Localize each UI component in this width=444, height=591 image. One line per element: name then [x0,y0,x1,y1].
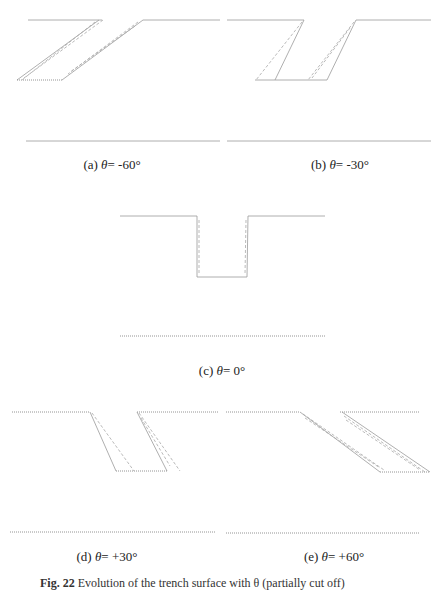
panel-b-label: (b) θ= -30° [311,157,369,173]
panel-d-diagram [10,412,218,532]
panel-c-diagram [120,216,325,336]
panel-a-label: (a) θ= -60° [83,157,140,173]
panel-d-label: (d) θ= +30° [77,549,138,565]
figure-caption: Fig. 22 Evolution of the trench surface … [40,576,345,591]
panel-a-diagram [17,20,220,141]
panel-e-label: (e) θ= +60° [304,549,364,565]
panel-c-label: (c) θ= 0° [199,363,245,379]
panel-e-diagram [226,412,430,533]
panel-b-diagram [227,20,431,141]
